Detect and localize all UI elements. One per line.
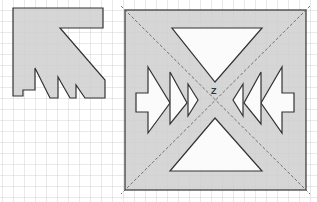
- center-label: Z: [211, 86, 217, 96]
- diagram-canvas: Z: [0, 0, 317, 202]
- right-square-figure: Z: [121, 6, 310, 194]
